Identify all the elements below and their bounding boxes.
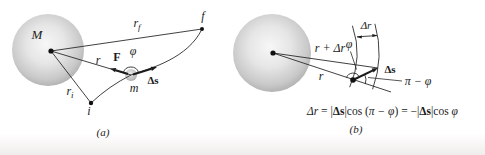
eq-phi: φ xyxy=(452,105,458,117)
particle-dot-b xyxy=(350,77,356,83)
trajectory-path-i-to-f xyxy=(91,29,202,103)
eq-delta-r: Δr xyxy=(307,105,318,117)
r-i-label: ri xyxy=(66,85,73,100)
force-F-arrow-shaft xyxy=(116,70,128,74)
angle-pi-minus-phi-arc xyxy=(365,74,366,84)
r-label-a: r xyxy=(96,54,101,66)
pi-minus-phi-leader-line xyxy=(368,78,402,82)
radius-line-r-plus-dr xyxy=(273,53,378,68)
phi-leader-line-b xyxy=(351,52,357,70)
eq-delta-s-2: Δs xyxy=(419,105,431,117)
delta-s-label-a: Δs xyxy=(147,75,158,86)
delta-r-measure-right-arrowhead xyxy=(372,34,377,37)
figure-canvas: M rf f r F φ Δs m ri i (a) r + Δr φ r Δr… xyxy=(0,0,485,155)
eq-delta-s-1: Δs xyxy=(333,105,345,117)
outer-circle-arc-r-plus-dr xyxy=(373,24,379,90)
force-F-arrowhead xyxy=(110,68,116,72)
particle-m-label: m xyxy=(130,82,139,94)
delta-r-measure-left-arrowhead xyxy=(357,35,362,38)
center-dot-a xyxy=(48,48,53,53)
r-f-label: rf xyxy=(133,17,140,32)
pi-minus-phi-label: π − φ xyxy=(405,75,432,87)
delta-s-arrowhead-a xyxy=(151,67,157,71)
radius-line-rf xyxy=(51,29,202,51)
phi-label-a: φ xyxy=(130,45,137,57)
mass-M-label: M xyxy=(32,28,43,41)
eq-equals-bar: = | xyxy=(318,105,333,117)
panel-a-caption: (a) xyxy=(97,127,110,138)
delta-s-label-b: Δs xyxy=(384,64,395,75)
eq-cos-open: |cos ( xyxy=(344,105,368,117)
eq-equals-neg-bar: ) = −| xyxy=(394,105,419,117)
delta-r-label: Δr xyxy=(361,20,372,31)
point-f-label: f xyxy=(201,10,204,22)
center-dot-b xyxy=(270,50,275,55)
eq-pi-minus-phi: π − φ xyxy=(369,105,395,117)
eq-cos-2: |cos xyxy=(431,105,452,117)
r-plus-dr-label: r + Δr xyxy=(315,42,345,54)
force-F-label: F xyxy=(113,51,120,63)
delta-r-equation: Δr = |Δs|cos (π − φ) = −|Δs|cos φ xyxy=(307,105,458,118)
phi-label-b: φ xyxy=(346,38,353,50)
angle-phi-arc-a xyxy=(123,67,138,73)
point-f-dot xyxy=(200,27,204,31)
point-i-label: i xyxy=(87,105,90,117)
r-label-b: r xyxy=(319,70,324,82)
panel-b-caption: (b) xyxy=(350,124,363,135)
delta-s-arrow-shaft-b xyxy=(354,70,373,79)
